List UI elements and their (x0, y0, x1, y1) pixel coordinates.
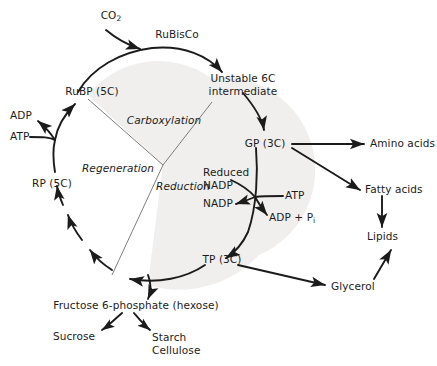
arrow-rp-to-junction (54, 140, 56, 172)
label-adp-plus-pi: ADP + Pi (269, 212, 315, 225)
label-cellulose: Cellulose (152, 344, 200, 357)
arrow-tp-to-glycerol (238, 265, 325, 285)
label-phase-reduction: Reduction (156, 181, 210, 193)
arrow-co2-to-rubisco (106, 30, 140, 49)
label-phase-regeneration: Regeneration (82, 163, 154, 175)
label-atp-right: ATP (285, 190, 304, 202)
label-starch: Starch (152, 331, 200, 344)
arrow-glycerol-to-lipids (374, 250, 391, 279)
label-fatty-acids: Fatty acids (365, 184, 423, 196)
label-glycerol: Glycerol (331, 281, 375, 293)
label-starch-cellulose: Starch Cellulose (152, 331, 200, 356)
label-unstable-6c-intermediate: Unstable 6C intermediate (209, 72, 278, 97)
label-atp-left: ATP (10, 131, 29, 143)
arrow-atp-to-junction (30, 137, 55, 140)
arrow-fructose-to-starch (134, 313, 150, 330)
label-rp-5c: RP (5C) (32, 178, 72, 190)
label-gp-3c: GP (3C) (245, 138, 286, 150)
label-rubisco: RuBisCo (155, 29, 199, 41)
arrow-bottom-arc-seg2 (90, 250, 112, 270)
label-phase-carboxylation: Carboxylation (127, 115, 201, 127)
label-nadp: NADP (203, 198, 233, 210)
calvin-cycle-diagram: CO2 RuBisCo RuBP (5C) Unstable 6C interm… (0, 0, 437, 366)
arrow-bottom-arc-seg3 (68, 215, 82, 240)
label-unstable-6c-line1: Unstable 6C (209, 72, 278, 85)
label-fructose-6-phosphate: Fructose 6-phosphate (hexose) (53, 300, 218, 312)
arrow-fructose-to-sucrose (102, 313, 122, 330)
label-unstable-6c-line2: intermediate (209, 85, 278, 98)
label-amino-acids: Amino acids (370, 138, 435, 150)
label-lipids: Lipids (367, 231, 398, 243)
arrow-junction-to-rubp (55, 104, 75, 140)
label-rubp: RuBP (5C) (65, 86, 118, 98)
label-reduced-nadp-line1: Reduced (203, 166, 249, 179)
label-tp-3c: TP (3C) (203, 254, 242, 266)
label-co2: CO2 (101, 10, 122, 23)
arrow-atp-right-to-junction (255, 196, 283, 197)
label-sucrose: Sucrose (53, 331, 95, 343)
label-adp: ADP (10, 110, 32, 122)
